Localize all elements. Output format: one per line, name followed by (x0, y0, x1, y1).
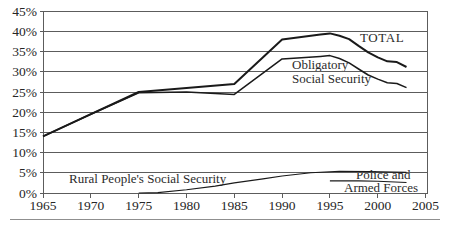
series-line-obligatory-social-security (43, 56, 407, 137)
y-tick-label: 15% (12, 125, 37, 140)
series-line-rural-peoples-social-security (139, 171, 407, 193)
y-tick-label: 40% (12, 24, 37, 39)
x-tick-label: 1975 (125, 198, 152, 213)
y-tick-label: 25% (12, 85, 37, 100)
series-line-total (43, 33, 407, 136)
y-tick-label: 5% (19, 165, 37, 180)
y-tick-label: 45% (12, 4, 37, 19)
x-tick-label: 1965 (30, 198, 57, 213)
x-tick-label: 1970 (77, 198, 104, 213)
line-chart-svg: 0%5%10%15%20%25%30%35%40%45%196519701975… (0, 0, 449, 228)
y-tick-label: 30% (12, 64, 37, 79)
x-tick-label: 1995 (316, 198, 343, 213)
x-tick-label: 1980 (173, 198, 200, 213)
y-tick-label: 10% (12, 145, 37, 160)
y-tick-label: 20% (12, 105, 37, 120)
x-tick-label: 2005 (412, 198, 439, 213)
series-line-police-and-armed-forces (330, 181, 407, 183)
chart-area: TOTAL Obligatory Social Security Rural P… (0, 0, 449, 228)
y-tick-label: 35% (12, 44, 37, 59)
x-tick-label: 1985 (221, 198, 248, 213)
x-tick-label: 1990 (269, 198, 296, 213)
x-tick-label: 2000 (364, 198, 391, 213)
